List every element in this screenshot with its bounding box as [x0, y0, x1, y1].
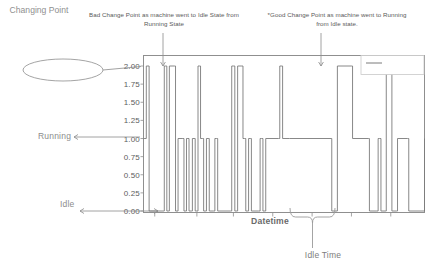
running-arrow	[74, 135, 140, 140]
plot-area-frame	[144, 56, 425, 213]
chart-figure: Bad Change Point as machine went to Idle…	[0, 0, 441, 272]
series-state-line	[144, 66, 425, 211]
annotation-arrow-good	[319, 33, 324, 66]
legend-box	[361, 56, 424, 75]
changing-point-ellipse	[23, 59, 103, 81]
chart-vector-layer	[0, 0, 441, 272]
x-axis-tick-marks	[155, 213, 391, 217]
changing-point-leader-line	[103, 67, 141, 71]
annotation-arrow-bad	[161, 33, 166, 66]
